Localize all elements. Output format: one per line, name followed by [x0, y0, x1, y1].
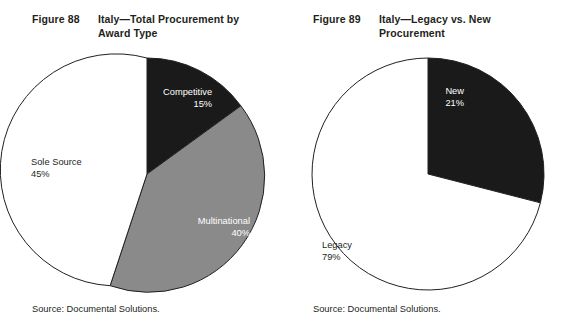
- pie-label-multinational-value: 40%: [160, 228, 250, 240]
- pie-label-competitive-name: Competitive: [163, 87, 212, 97]
- pie-label-legacy: Legacy 79%: [322, 240, 352, 263]
- pie-label-legacy-value: 79%: [322, 252, 352, 264]
- pie-chart-award-type-svg: [0, 0, 280, 300]
- pie-label-sole-source-name: Sole Source: [31, 157, 82, 167]
- pie-label-new: New 21%: [391, 86, 464, 109]
- pie-label-new-name: New: [445, 86, 464, 96]
- pie-chart-award-type: Competitive 15% Multinational 40% Sole S…: [0, 0, 280, 300]
- pie-label-multinational: Multinational 40%: [160, 216, 250, 239]
- pie-label-sole-source: Sole Source 45%: [31, 157, 82, 180]
- figures-page: Figure 88 Italy—Total Procurement by Awa…: [0, 0, 561, 331]
- pie-chart-legacy-vs-new: New 21% Legacy 79%: [281, 0, 561, 300]
- pie-label-competitive-value: 15%: [163, 99, 212, 111]
- pie-label-legacy-name: Legacy: [322, 240, 352, 250]
- figure-89-source: Source: Documental Solutions.: [313, 303, 441, 315]
- pie-label-sole-source-value: 45%: [31, 169, 82, 181]
- pie-label-competitive: Competitive 15%: [163, 87, 212, 110]
- figure-panel-89: Figure 89 Italy—Legacy vs. New Procureme…: [281, 0, 561, 331]
- pie-label-new-value: 21%: [391, 98, 464, 110]
- figure-panel-88: Figure 88 Italy—Total Procurement by Awa…: [0, 0, 280, 331]
- pie-label-multinational-name: Multinational: [198, 216, 250, 226]
- figure-88-source: Source: Documental Solutions.: [32, 303, 160, 315]
